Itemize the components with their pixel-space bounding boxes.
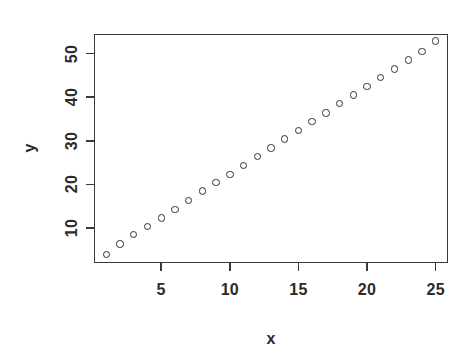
- y-axis-tick-label: 50: [63, 44, 81, 62]
- x-axis-tick-label: 10: [221, 281, 239, 299]
- y-axis-tick: [86, 53, 94, 55]
- plot-area-box: [94, 34, 448, 263]
- x-axis-tick-label: 15: [289, 281, 307, 299]
- y-axis-tick: [86, 227, 94, 229]
- x-axis-title: x: [267, 330, 276, 348]
- scatter-plot-figure: 5101520251020304050 x y: [0, 0, 470, 359]
- x-axis-tick: [366, 263, 368, 271]
- y-axis-title: y: [21, 144, 39, 153]
- x-axis-tick: [298, 263, 300, 271]
- y-axis-tick: [86, 96, 94, 98]
- y-axis-tick-label: 10: [63, 219, 81, 237]
- x-axis-tick-label: 20: [358, 281, 376, 299]
- y-axis-tick-label: 20: [63, 175, 81, 193]
- x-axis-tick: [229, 263, 231, 271]
- y-axis-tick-label: 40: [63, 88, 81, 106]
- x-axis-tick-label: 25: [426, 281, 444, 299]
- y-axis-tick: [86, 140, 94, 142]
- x-axis-tick: [160, 263, 162, 271]
- y-axis-tick-label: 30: [63, 132, 81, 150]
- x-axis-tick-label: 5: [157, 281, 166, 299]
- x-axis-tick: [435, 263, 437, 271]
- y-axis-tick: [86, 184, 94, 186]
